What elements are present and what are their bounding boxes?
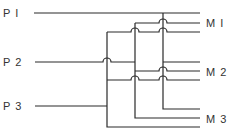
p2-to-m2: [135, 67, 200, 71]
p3-net: [35, 28, 200, 127]
input-label-p3: P 3: [3, 100, 22, 112]
output-label-m2: M 2: [206, 66, 227, 78]
p3-to-m2: [107, 76, 200, 80]
p2-to-m1: [135, 19, 200, 23]
p1-net: [34, 13, 200, 109]
p1-bus: [163, 13, 200, 109]
wiring-diagram: P I P 2 P 3 M I M 2 M 3: [0, 0, 243, 138]
input-label-p1: P I: [3, 7, 19, 19]
p2-line: [35, 58, 135, 62]
output-label-m3: M 3: [206, 113, 227, 125]
input-label-p2: P 2: [3, 56, 22, 68]
p2-net: [35, 19, 200, 118]
p3-to-m1: [107, 28, 200, 32]
output-label-m1: M I: [206, 17, 224, 29]
